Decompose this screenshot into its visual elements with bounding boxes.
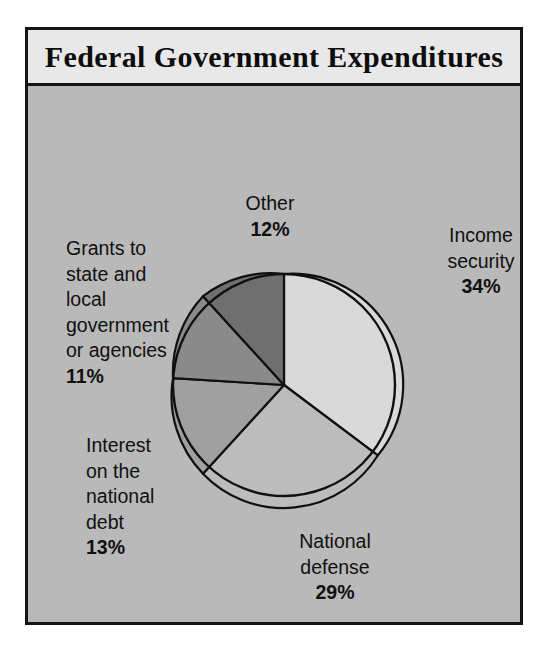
pie-label-other-line1: Other: [225, 191, 315, 217]
pie-label-interest: Interest on the national debt 13%: [86, 433, 216, 561]
pie-label-grants: Grants to state and local government or …: [66, 236, 226, 389]
pie-label-interest-percent: 13%: [86, 535, 216, 561]
chart-title-band: Federal Government Expenditures: [28, 30, 520, 86]
pie-label-defense-line1: National: [270, 529, 400, 555]
pie-label-interest-line3: national: [86, 484, 216, 510]
pie-label-interest-line2: on the: [86, 459, 216, 485]
chart-figure: Federal Government Expenditures Other 12…: [25, 27, 523, 625]
pie-label-grants-line4: government: [66, 313, 226, 339]
pie-label-other: Other 12%: [225, 191, 315, 242]
pie-label-interest-line1: Interest: [86, 433, 216, 459]
page-title: Federal Government Expenditures: [45, 40, 503, 74]
pie-label-grants-percent: 11%: [66, 364, 226, 390]
pie-label-income-percent: 34%: [426, 274, 536, 300]
pie-label-grants-line3: local: [66, 287, 226, 313]
pie-label-grants-line1: Grants to: [66, 236, 226, 262]
pie-label-defense-line2: defense: [270, 555, 400, 581]
pie-label-defense-percent: 29%: [270, 580, 400, 606]
pie-label-grants-line5: or agencies: [66, 338, 226, 364]
pie-label-income-line2: security: [426, 249, 536, 275]
pie-label-other-percent: 12%: [225, 217, 315, 243]
pie-label-income-line1: Income: [426, 223, 536, 249]
pie-label-income-security: Income security 34%: [426, 223, 536, 300]
pie-label-grants-line2: state and: [66, 262, 226, 288]
plot-area: Other 12% Grants to state and local gove…: [28, 86, 520, 622]
pie-label-interest-line4: debt: [86, 510, 216, 536]
pie-label-national-defense: National defense 29%: [270, 529, 400, 606]
